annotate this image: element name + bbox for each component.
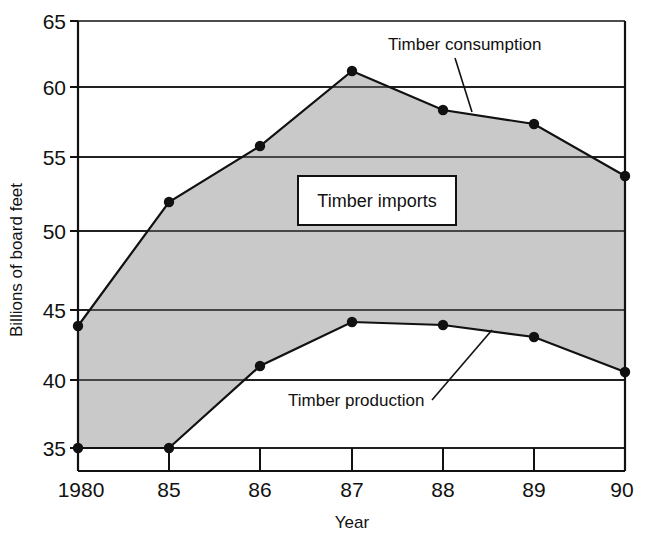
y-tick-label: 55 <box>43 146 66 169</box>
data-point <box>529 332 539 342</box>
chart-figure: 65 60 55 50 45 40 35 1980 85 86 87 88 89… <box>0 0 657 542</box>
y-tick-label: 35 <box>43 437 66 460</box>
y-tick-label: 45 <box>43 299 66 322</box>
legend-label: Timber imports <box>317 191 436 211</box>
x-tick-label: 90 <box>610 478 633 501</box>
x-axis-title: Year <box>335 513 370 532</box>
data-point <box>438 320 448 330</box>
legend-timber-imports: Timber imports <box>298 176 456 225</box>
y-tick-label: 60 <box>43 76 66 99</box>
data-point <box>438 105 448 115</box>
y-tick-label: 40 <box>43 369 66 392</box>
data-point <box>255 141 265 151</box>
x-tick-label: 87 <box>340 478 363 501</box>
x-tick-label: 1980 <box>58 478 105 501</box>
annotation-label: Timber consumption <box>388 35 541 54</box>
y-axis-title: Billions of board feet <box>7 183 26 337</box>
data-point <box>255 361 265 371</box>
x-tick-label: 88 <box>431 478 454 501</box>
y-tick-label: 50 <box>43 220 66 243</box>
x-tick-label: 89 <box>522 478 545 501</box>
annotation-label: Timber production <box>288 391 424 410</box>
data-point <box>164 197 174 207</box>
data-point <box>529 119 539 129</box>
x-tick-label: 86 <box>248 478 271 501</box>
data-point <box>347 317 357 327</box>
data-point <box>347 66 357 76</box>
y-tick-label: 65 <box>43 10 66 33</box>
timber-area-chart: 65 60 55 50 45 40 35 1980 85 86 87 88 89… <box>0 0 657 542</box>
x-tick-label: 85 <box>157 478 180 501</box>
